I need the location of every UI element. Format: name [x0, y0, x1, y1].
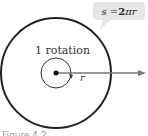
radius-label: r [80, 72, 85, 83]
arrow-head-icon [138, 70, 146, 76]
callout-s: s = [101, 6, 118, 17]
callout-pi-r: πr [125, 6, 136, 17]
arc-length-callout: s = 2πr [93, 2, 145, 20]
rotation-label: 1 rotation [35, 44, 90, 57]
center-point [54, 71, 59, 76]
rotation-diagram [0, 0, 148, 136]
figure-caption: Figure 4.2 [2, 130, 47, 136]
